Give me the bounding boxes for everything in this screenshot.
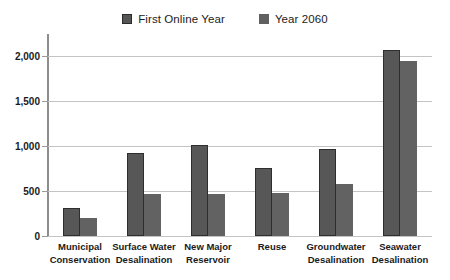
gridline-0 bbox=[48, 236, 432, 237]
x-axis-labels: MunicipalConservationSurface WaterDesali… bbox=[48, 240, 432, 280]
y-tick-label: 1,000 bbox=[2, 141, 40, 152]
bar-group bbox=[368, 34, 432, 236]
y-tick-mark bbox=[42, 56, 48, 57]
legend-label-series-2: Year 2060 bbox=[275, 13, 328, 25]
x-axis-label-line: Desalination bbox=[112, 253, 176, 266]
x-axis-category-label: GroundwaterDesalination bbox=[304, 240, 368, 266]
bar-series-1 bbox=[319, 149, 336, 236]
x-axis-category-label: New MajorReservoir bbox=[176, 240, 240, 266]
bar-group bbox=[112, 34, 176, 236]
bar-series-2 bbox=[400, 61, 417, 236]
y-axis-labels: 05001,0001,5002,000 bbox=[0, 0, 40, 280]
y-tick-label: 0 bbox=[2, 231, 40, 242]
y-tick-mark bbox=[42, 146, 48, 147]
bar-group bbox=[240, 34, 304, 236]
x-axis-label-line: Municipal bbox=[48, 240, 112, 253]
bar-series-2 bbox=[336, 184, 353, 236]
x-axis-category-label: Surface WaterDesalination bbox=[112, 240, 176, 266]
bar-group bbox=[176, 34, 240, 236]
x-axis-label-line: Reuse bbox=[240, 240, 304, 253]
bar-series-2 bbox=[208, 194, 225, 236]
bar-series-1 bbox=[255, 168, 272, 236]
x-axis-label-line: Groundwater bbox=[304, 240, 368, 253]
legend-swatch-series-2 bbox=[259, 14, 269, 24]
legend-label-series-1: First Online Year bbox=[138, 13, 225, 25]
bar-series-1 bbox=[127, 153, 144, 236]
bar-group bbox=[48, 34, 112, 236]
y-tick-mark bbox=[42, 191, 48, 192]
legend-item-first-online-year: First Online Year bbox=[122, 13, 225, 25]
x-axis-category-label: MunicipalConservation bbox=[48, 240, 112, 266]
legend-item-year-2060: Year 2060 bbox=[259, 13, 328, 25]
bar-groups bbox=[48, 34, 432, 236]
bar-chart: First Online Year Year 2060 05001,0001,5… bbox=[0, 0, 450, 280]
bar-series-2 bbox=[80, 218, 97, 236]
x-axis-label-line: Desalination bbox=[368, 253, 432, 266]
x-axis-label-line: Seawater bbox=[368, 240, 432, 253]
bar-series-2 bbox=[272, 193, 289, 236]
bar-series-2 bbox=[144, 194, 161, 236]
x-axis-label-line: Reservoir bbox=[176, 253, 240, 266]
chart-legend: First Online Year Year 2060 bbox=[0, 10, 450, 28]
y-tick-mark bbox=[42, 101, 48, 102]
bar-series-1 bbox=[191, 145, 208, 236]
x-axis-category-label: SeawaterDesalination bbox=[368, 240, 432, 266]
bar-series-1 bbox=[383, 50, 400, 236]
y-tick-label: 1,500 bbox=[2, 96, 40, 107]
bar-group bbox=[304, 34, 368, 236]
x-axis-label-line: Conservation bbox=[48, 253, 112, 266]
x-axis-label-line: New Major bbox=[176, 240, 240, 253]
y-tick-mark bbox=[42, 236, 48, 237]
bar-series-1 bbox=[63, 208, 80, 236]
y-tick-label: 500 bbox=[2, 186, 40, 197]
x-axis-label-line: Surface Water bbox=[112, 240, 176, 253]
legend-swatch-series-1 bbox=[122, 14, 132, 24]
y-tick-label: 2,000 bbox=[2, 51, 40, 62]
x-axis-label-line: Desalination bbox=[304, 253, 368, 266]
x-axis-category-label: Reuse bbox=[240, 240, 304, 253]
